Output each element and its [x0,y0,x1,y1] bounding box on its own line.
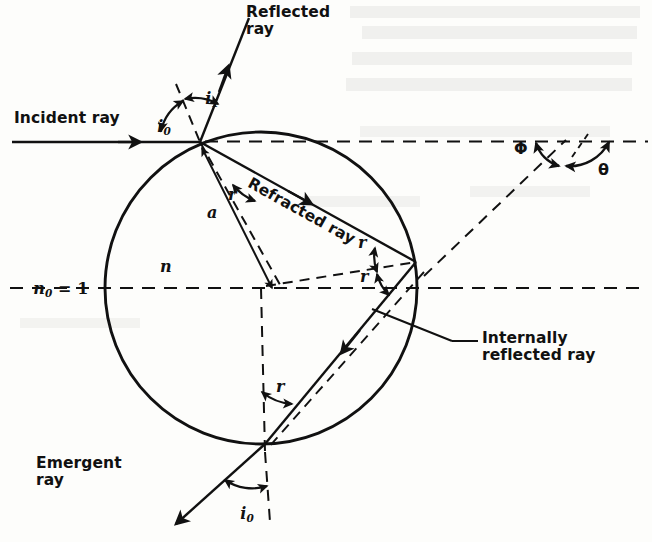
label-n0-equals: = 1 [52,279,88,298]
exit-normal-dashed [261,288,265,452]
radius-to-internal-reflection-dashed [266,262,416,286]
label-i0-top-subscript: 0 [164,125,171,137]
label-i1-subscript: 1 [212,97,219,109]
internally-reflected-leader [372,309,452,341]
label-incident-ray: Incident ray [14,110,120,127]
label-angle-r-entry: r [228,186,237,204]
label-angle-i0-bottom: i0 [229,487,254,525]
internal-normal-extension-dashed [424,140,566,276]
scan-showthrough [20,6,640,328]
label-n0-symbol: n [33,279,45,298]
angle-arc-phi [536,143,559,166]
label-impact-parameter-a: a [207,204,217,222]
label-emergent-ray: Emergent ray [36,455,122,490]
label-reflected-ray: Reflected ray [246,4,330,39]
angle-arc-r-internal-lower [377,274,389,295]
label-n-inside: n [160,258,172,276]
label-angle-theta: θ [598,161,609,179]
label-angle-r-internal-lower: r [360,268,369,286]
label-i0-bottom-subscript: 0 [247,512,254,524]
internally-reflected-ray-line [265,262,416,444]
label-angle-r-exit: r [276,378,285,396]
label-angle-i1: i1 [194,72,219,110]
label-internally-reflected-ray: Internally reflected ray [482,330,595,365]
label-angle-r-internal-upper: r [358,234,367,252]
reflected-ray-arrowhead [219,70,227,92]
theta-inner-dash [572,134,588,157]
label-angle-i0-top: i0 [146,100,171,138]
label-n0-outside: n0 = 1 [22,262,88,300]
label-angle-phi: Φ [514,140,528,158]
internally-reflected-arrowhead [344,330,360,350]
